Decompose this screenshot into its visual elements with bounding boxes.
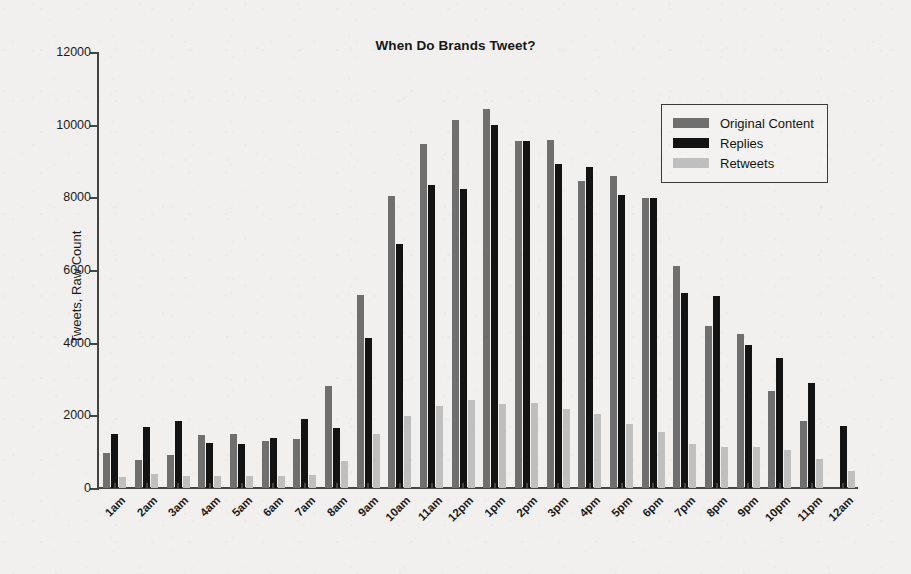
bar — [293, 439, 300, 488]
x-tick-label: 3am — [166, 494, 191, 519]
x-tick-mark — [177, 483, 179, 489]
legend-label: Replies — [720, 136, 763, 151]
y-tick-label: 10000 — [56, 118, 91, 132]
x-tick-mark — [557, 483, 559, 489]
bar — [721, 447, 728, 488]
bar — [658, 432, 665, 488]
bar — [515, 141, 522, 488]
bar-group — [388, 52, 411, 488]
x-tick-label: 9am — [356, 494, 381, 519]
bar-group — [578, 52, 601, 488]
bar — [523, 141, 530, 488]
bar — [713, 296, 720, 488]
bar — [246, 476, 253, 488]
x-tick-label: 7am — [293, 494, 318, 519]
bar — [689, 444, 696, 488]
x-tick-mark — [684, 483, 686, 489]
bar — [151, 474, 158, 488]
bar — [238, 444, 245, 488]
bar — [816, 459, 823, 488]
bar — [673, 266, 680, 488]
y-tick-mark — [90, 197, 99, 199]
bar — [499, 404, 506, 488]
bar-group — [262, 52, 285, 488]
x-tick-label: 10am — [383, 494, 412, 523]
legend-item: Original Content — [673, 113, 814, 133]
bar — [650, 198, 657, 488]
legend-label: Retweets — [720, 156, 774, 171]
x-tick-mark — [272, 483, 274, 489]
bar — [618, 195, 625, 488]
x-tick-label: 2pm — [514, 494, 539, 519]
x-tick-label: 5am — [229, 494, 254, 519]
x-tick-label: 3pm — [545, 494, 570, 519]
x-tick-mark — [114, 483, 116, 489]
x-tick-mark — [304, 483, 306, 489]
bar — [230, 434, 237, 488]
bar — [745, 345, 752, 488]
bar — [341, 461, 348, 488]
bar — [626, 424, 633, 488]
x-tick-label: 11am — [415, 494, 444, 523]
x-tick-label: 8am — [324, 494, 349, 519]
legend-label: Original Content — [720, 116, 814, 131]
bar-chart-figure: When Do Brands Tweet? Tweets, Raw Count … — [0, 0, 911, 574]
y-tick-mark — [90, 415, 99, 417]
x-tick-mark — [399, 483, 401, 489]
x-tick-mark — [716, 483, 718, 489]
x-tick-label: 11pm — [795, 494, 824, 523]
bar — [428, 185, 435, 488]
bar-group — [515, 52, 538, 488]
bar — [610, 176, 617, 488]
bar — [167, 455, 174, 488]
y-tick-label: 0 — [84, 481, 91, 495]
bar — [531, 403, 538, 488]
bar — [753, 447, 760, 488]
y-tick-mark — [90, 125, 99, 127]
bar-group — [167, 52, 190, 488]
x-tick-mark — [621, 483, 623, 489]
bar — [768, 391, 775, 488]
bar — [214, 476, 221, 488]
x-tick-mark — [367, 483, 369, 489]
chart-title: When Do Brands Tweet? — [0, 38, 911, 53]
x-tick-mark — [747, 483, 749, 489]
bar-group — [325, 52, 348, 488]
bar — [586, 167, 593, 488]
legend-item: Replies — [673, 133, 814, 153]
y-tick-label: 2000 — [63, 408, 91, 422]
bar — [404, 416, 411, 488]
bar — [705, 326, 712, 488]
bar — [373, 434, 380, 488]
x-tick-label: 9pm — [735, 494, 760, 519]
x-tick-label: 10pm — [763, 494, 793, 524]
legend-swatch — [673, 118, 709, 128]
bar — [278, 476, 285, 488]
x-tick-label: 4pm — [577, 494, 602, 519]
y-axis-title: Tweets, Raw Count — [69, 231, 84, 344]
y-tick-mark — [90, 488, 99, 490]
bar — [547, 140, 554, 488]
bar-group — [452, 52, 475, 488]
bar — [262, 441, 269, 488]
x-tick-mark — [811, 483, 813, 489]
x-tick-label: 6am — [261, 494, 286, 519]
bar — [808, 383, 815, 488]
bar — [365, 338, 372, 488]
bar-group — [230, 52, 253, 488]
bar — [420, 144, 427, 488]
bar — [270, 438, 277, 489]
bar — [119, 477, 126, 488]
bar — [642, 198, 649, 488]
bar-group — [610, 52, 633, 488]
y-tick-label: 8000 — [63, 190, 91, 204]
bar — [183, 476, 190, 488]
x-tick-mark — [336, 483, 338, 489]
x-tick-label: 8pm — [704, 494, 729, 519]
x-tick-label: 2am — [134, 494, 159, 519]
x-tick-mark — [779, 483, 781, 489]
bar — [737, 334, 744, 488]
bar-group — [483, 52, 506, 488]
bar — [578, 181, 585, 488]
x-tick-label: 12pm — [446, 494, 476, 524]
